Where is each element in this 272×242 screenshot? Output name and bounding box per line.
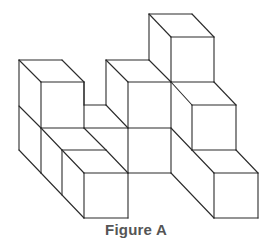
cube-edge — [214, 82, 236, 105]
cube-figure — [0, 0, 272, 242]
cube-edge — [171, 173, 214, 218]
cube-edge — [236, 150, 258, 173]
cube-edge — [62, 60, 84, 82]
cube-edge — [41, 128, 62, 150]
cube-edge — [171, 128, 192, 150]
cube-edge — [106, 60, 128, 82]
cube-edge — [192, 150, 214, 173]
cube-edge — [171, 82, 192, 105]
cube-edge — [149, 60, 171, 82]
cube-edge — [84, 128, 106, 150]
cube-edge — [149, 14, 171, 37]
cube-edge — [62, 150, 84, 173]
figure-caption: Figure A — [0, 221, 272, 238]
cube-edge — [19, 150, 41, 173]
cube-edge — [192, 14, 214, 37]
cube-edge — [19, 106, 41, 128]
cube-edge — [19, 60, 41, 82]
cube-edge — [106, 150, 128, 173]
cube-edge — [106, 105, 128, 128]
